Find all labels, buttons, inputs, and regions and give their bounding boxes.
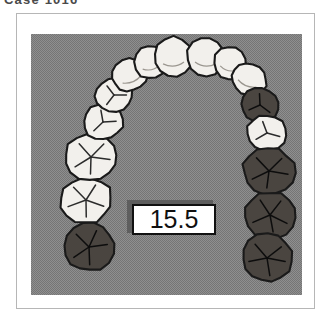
- measurement-value: 15.5: [150, 207, 199, 232]
- figure-caption-strip: Case 1016: [0, 0, 332, 7]
- tooth-upper-right-third-molar[interactable]: [240, 230, 295, 284]
- dental-arch-diagram: [31, 34, 302, 295]
- tooth-upper-left-first-molar[interactable]: [64, 132, 118, 181]
- tooth-upper-right-first-molar[interactable]: [240, 146, 297, 196]
- dental-arch-scan-area: 15.5: [31, 34, 302, 295]
- figure-frame: 15.5: [16, 13, 315, 309]
- tooth-upper-left-second-molar[interactable]: [58, 176, 114, 226]
- teeth-layer: [58, 35, 298, 285]
- measurement-label-box[interactable]: 15.5: [132, 204, 216, 235]
- figure-caption-text: Case 1016: [4, 0, 78, 7]
- tooth-upper-left-third-molar[interactable]: [61, 219, 117, 274]
